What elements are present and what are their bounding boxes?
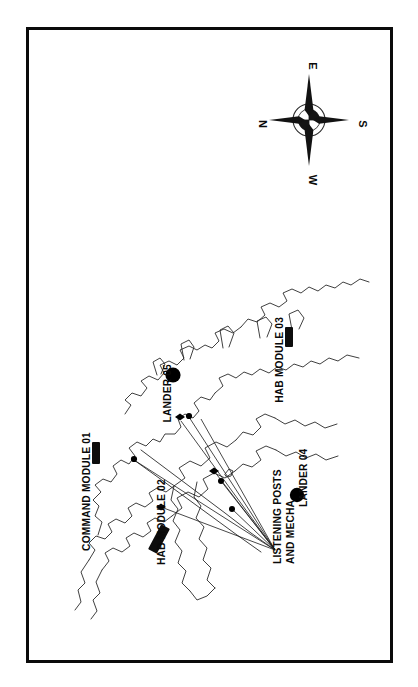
terrain-south-tip [190,588,215,600]
leader-line-1 [181,421,275,550]
listening-post-dot-2 [131,456,137,462]
terrain-central-b [172,471,235,516]
map-artwork: E W N S [29,30,390,660]
hab-module-03-marker[interactable] [285,327,293,347]
compass-rose: E W N S [257,62,369,185]
terrain-west-tail-a [75,560,89,610]
listening-post-dot-4 [229,506,235,512]
label-lander-04: LANDER 04 [298,448,309,507]
compass-point-left [269,116,305,124]
terrain-west-tail-b [91,570,102,619]
compass-label-west: W [307,175,319,186]
terrain-central-c [236,414,275,440]
leader-line-2 [189,417,275,550]
mecha-glyph [225,469,233,477]
compass-label-south: S [357,120,369,127]
terrain-spur-2 [181,340,194,360]
terrain-central-a [174,440,236,486]
map-frame-border: E W N S [26,27,393,663]
compass-label-north: N [257,120,269,128]
label-hab-module-03: HAB MODULE 03 [274,317,285,403]
compass-point-bottom [305,124,314,166]
terrain-ridge-north-branch [215,355,359,393]
label-listening-posts-line-2: AND MECHA [285,500,296,564]
listening-post-dot-3 [218,478,224,484]
listening-post-markers [131,413,235,512]
terrain-south-lobe [171,486,190,591]
label-hab-module-02: HAB MODULE 02 [156,479,167,565]
leader-line-6 [232,509,275,550]
terrain-east-edge [275,418,337,428]
terrain-spur-3 [220,326,234,348]
map-labels: COMMAND MODULE 01 HAB MODULE 02 HAB MODU… [81,317,309,565]
leader-line-3 [201,419,275,550]
command-module-01-marker[interactable] [92,442,100,464]
terrain-ridge-upper [125,327,241,414]
label-lander-05: LANDER 05 [162,364,173,423]
compass-point-right [313,116,349,124]
mecha-marker-2 [209,468,219,475]
label-listening-posts-line-1: LISTENING POSTS [272,469,283,564]
map-canvas: E W N S [29,30,390,660]
terrain-spur-4 [257,317,272,338]
terrain-valley-edge-a [134,460,261,552]
label-command-module-01: COMMAND MODULE 01 [81,432,92,551]
compass-label-east: E [307,62,319,69]
compass-point-top [305,74,314,116]
map-root: E W N S [0,0,418,687]
listening-post-dot-1 [186,413,192,419]
terrain-central-d [235,446,276,471]
terrain-contours [75,279,369,619]
